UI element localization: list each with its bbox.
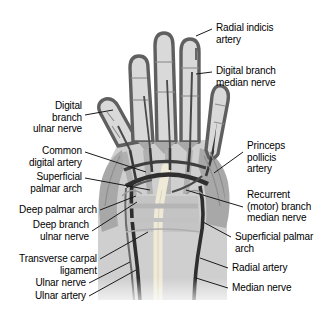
ring-finger — [130, 56, 153, 142]
label-digital-branch-ulnar-nerve: Digital branch ulnar nerve — [0, 100, 82, 135]
label-radial-artery: Radial artery — [232, 262, 287, 274]
label-digital-branch-median-nerve: Digital branch median nerve — [216, 65, 276, 88]
anatomy-figure: Radial indicis artery Digital branch med… — [0, 0, 325, 310]
label-ulnar-nerve: Ulnar nerve — [0, 277, 86, 289]
thumb — [206, 86, 228, 159]
label-deep-branch-ulnar-nerve: Deep branch ulnar nerve — [0, 219, 89, 242]
label-deep-palmar-arch: Deep palmar arch — [0, 204, 97, 216]
label-ulnar-artery: Ulnar artery — [0, 290, 86, 302]
label-transverse-carpal-ligament: Transverse carpal ligament — [0, 253, 97, 276]
hand-body — [92, 33, 234, 310]
middle-finger — [155, 33, 176, 142]
label-recurrent-motor-branch-median-nerve: Recurrent (motor) branch median nerve — [247, 189, 311, 224]
label-radial-indicis-artery: Radial indicis artery — [216, 22, 274, 45]
label-superficial-palmar-arch-right: Superficial palmar arch — [235, 231, 313, 254]
label-median-nerve: Median nerve — [232, 282, 291, 294]
label-superficial-palmar-arch-left: Superficial palmar arch — [0, 171, 82, 194]
leader-radial-indicis-artery — [196, 29, 212, 36]
label-princeps-pollicis-artery: Princeps pollicis artery — [247, 140, 285, 175]
label-common-digital-artery: Common digital artery — [0, 145, 82, 168]
